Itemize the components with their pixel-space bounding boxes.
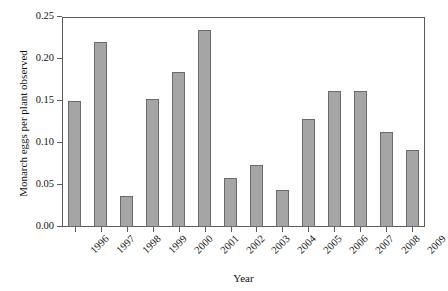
- y-axis-title: Monarch eggs per plant observed: [18, 9, 29, 239]
- bar-slot: [114, 17, 140, 227]
- y-tick-label: 0.10: [18, 136, 54, 147]
- bar-slot: [244, 17, 270, 227]
- x-axis-title: Year: [62, 272, 425, 284]
- x-tick-mark: [231, 227, 232, 232]
- x-tick-label-2002: 2002: [244, 233, 267, 256]
- y-tick-label: 0.05: [18, 178, 54, 189]
- bar-1998: [120, 196, 133, 227]
- x-tick-label-2007: 2007: [373, 233, 396, 256]
- x-tick-mark: [256, 227, 257, 232]
- bar-slot: [321, 17, 347, 227]
- bar-2008: [380, 132, 393, 227]
- bar-2001: [198, 30, 211, 227]
- x-tick-mark: [179, 227, 180, 232]
- bar-series: [62, 17, 425, 227]
- x-tick-mark: [101, 227, 102, 232]
- x-tick-label-2001: 2001: [218, 233, 241, 256]
- bar-2006: [328, 91, 341, 227]
- x-tick-label-2008: 2008: [399, 233, 422, 256]
- bar-slot: [269, 17, 295, 227]
- y-tick-label: 0.15: [18, 94, 54, 105]
- bar-1999: [146, 99, 159, 227]
- x-tick-label-1997: 1997: [114, 233, 137, 256]
- x-tick-mark: [386, 227, 387, 232]
- bar-slot: [295, 17, 321, 227]
- bar-slot: [373, 17, 399, 227]
- bar-slot: [140, 17, 166, 227]
- bar-slot: [399, 17, 425, 227]
- x-tick-label-2000: 2000: [192, 233, 215, 256]
- x-tick-mark: [282, 227, 283, 232]
- x-tick-mark: [205, 227, 206, 232]
- x-tick-label-2003: 2003: [270, 233, 293, 256]
- bar-slot: [347, 17, 373, 227]
- bar-2009: [406, 150, 419, 227]
- x-tick-mark: [127, 227, 128, 232]
- bar-slot: [62, 17, 88, 227]
- x-axis-tick-labels: 1996199719981999200020012002200320042005…: [62, 233, 425, 273]
- bar-1996: [68, 101, 81, 227]
- bar-slot: [88, 17, 114, 227]
- bar-2004: [276, 190, 289, 227]
- bar-2002: [224, 178, 237, 227]
- y-tick-label: 0.25: [18, 10, 54, 21]
- x-tick-mark: [75, 227, 76, 232]
- bar-2000: [172, 72, 185, 227]
- x-tick-label-1998: 1998: [140, 233, 163, 256]
- y-tick-label: 0.00: [18, 220, 54, 231]
- bar-2005: [302, 119, 315, 227]
- y-tick-label: 0.20: [18, 52, 54, 63]
- x-tick-mark: [412, 227, 413, 232]
- bar-2003: [250, 165, 263, 227]
- x-tick-mark: [153, 227, 154, 232]
- bar-slot: [192, 17, 218, 227]
- x-tick-mark: [308, 227, 309, 232]
- x-tick-mark: [360, 227, 361, 232]
- bar-1997: [94, 42, 107, 227]
- x-tick-label-2006: 2006: [347, 233, 370, 256]
- x-tick-label-2009: 2009: [425, 233, 448, 256]
- bar-slot: [218, 17, 244, 227]
- x-tick-mark: [334, 227, 335, 232]
- bar-slot: [166, 17, 192, 227]
- bar-2007: [354, 91, 367, 227]
- x-tick-label-2004: 2004: [296, 233, 319, 256]
- x-tick-label-2005: 2005: [321, 233, 344, 256]
- x-tick-label-1999: 1999: [166, 233, 189, 256]
- x-tick-label-1996: 1996: [88, 233, 111, 256]
